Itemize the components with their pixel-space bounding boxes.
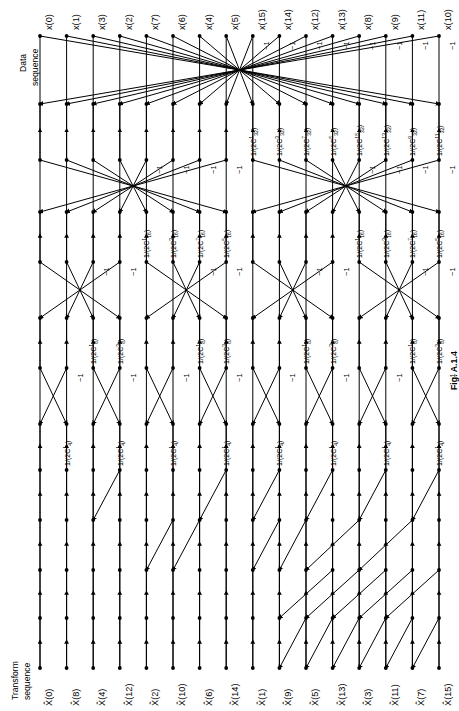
figure-caption: Fig. A.1.4 — [449, 351, 459, 390]
negative-sign-stage-4-7: −1 — [235, 373, 244, 382]
input-axis-label-line2: sequence — [30, 49, 40, 86]
coefficient-stage-1-14: 1/(2C932) — [409, 128, 417, 156]
negative-sign-stage-1-13: −1 — [395, 41, 404, 50]
figure-caption-text: Fig. A.1.4 — [449, 351, 459, 390]
coefficient-stage-4-7: 1/(2C14) — [223, 441, 231, 466]
negative-sign-stage-2-6: −1 — [209, 165, 218, 174]
input-label-8: x(15) — [257, 9, 267, 30]
input-label-0: x(0) — [44, 14, 54, 30]
coefficient-stage-4-13: 1/(2C14) — [383, 441, 391, 466]
coefficient-stage-1-13: 1/(2C1332) — [383, 125, 391, 156]
coefficient-stage-3-6: 1/(2C18) — [197, 339, 205, 364]
negative-sign-stage-1-11: −1 — [342, 41, 351, 50]
input-label-9: x(14) — [283, 9, 293, 30]
output-label-15: X̂(15) — [443, 684, 453, 706]
output-label-0: X̂(0) — [44, 689, 54, 706]
negative-sign-stage-1-14: −1 — [421, 41, 430, 50]
coefficient-stage-2-5: 1/(2C316) — [170, 230, 178, 258]
negative-sign-stage-4-13: −1 — [395, 373, 404, 382]
coefficient-stage-2-15: 1/(2C516) — [436, 230, 444, 258]
input-label-3: x(2) — [124, 14, 134, 30]
coefficient-stage-3-3: 1/(2C38) — [117, 339, 125, 364]
output-label-12: X̂(3) — [363, 689, 373, 706]
coefficient-stage-1-10: 1/(2C732) — [303, 128, 311, 156]
coefficient-stage-2-4: 1/(2C116) — [143, 230, 151, 258]
output-label-7: X̂(14) — [230, 684, 240, 706]
negative-sign-stage-3-14: −1 — [421, 267, 430, 276]
output-label-13: X̂(11) — [390, 684, 400, 706]
input-label-14: x(11) — [416, 10, 426, 30]
negative-sign-stage-1-8: −1 — [262, 41, 271, 50]
output-axis-label-2: sequence — [22, 663, 32, 700]
negative-sign-stage-2-15: −1 — [448, 165, 457, 174]
output-label-4: X̂(2) — [150, 689, 160, 706]
coefficient-stage-3-11: 1/(2C38) — [330, 339, 338, 364]
input-axis-label: Data — [18, 54, 28, 72]
negative-sign-stage-1-9: −1 — [288, 41, 297, 50]
negative-sign-stage-1-12: −1 — [368, 41, 377, 50]
input-label-13: x(9) — [390, 14, 400, 30]
coefficient-stage-4-3: 1/(2C14) — [117, 441, 125, 466]
input-label-1: x(1) — [71, 14, 81, 30]
coefficient-stage-1-11: 1/(2C532) — [330, 128, 338, 156]
input-label-15: x(10) — [443, 9, 453, 30]
output-label-8: X̂(1) — [257, 689, 267, 706]
negative-sign-stage-1-15: −1 — [448, 41, 457, 50]
output-label-10: X̂(5) — [310, 689, 320, 706]
input-label-2: x(3) — [97, 14, 107, 30]
output-label-11: X̂(13) — [337, 684, 347, 706]
coefficient-stage-4-9: 1/(2C14) — [276, 441, 284, 466]
input-label-10: x(12) — [310, 9, 320, 30]
input-label-6: x(4) — [204, 14, 214, 30]
negative-sign-stage-2-12: −1 — [368, 165, 377, 174]
input-axis-label-line1: Data — [18, 54, 28, 72]
coefficient-stage-3-7: 1/(2C38) — [223, 339, 231, 364]
coefficient-stage-2-14: 1/(2C716) — [409, 230, 417, 258]
input-label-12: x(8) — [363, 14, 373, 30]
coefficient-stage-2-13: 1/(2C316) — [383, 230, 391, 258]
input-label-11: x(13) — [337, 9, 347, 30]
coefficient-stage-3-15: 1/(2C38) — [436, 339, 444, 364]
coefficient-stage-1-9: 1/(2C332) — [276, 128, 284, 156]
negative-sign-stage-3-11: −1 — [342, 267, 351, 276]
negative-sign-stage-2-4: −1 — [155, 165, 164, 174]
input-label-5: x(6) — [177, 14, 187, 30]
output-axis-label-line1: Transform — [10, 661, 20, 700]
negative-sign-stage-3-10: −1 — [315, 267, 324, 276]
coefficient-stage-2-12: 1/(2C116) — [356, 230, 364, 258]
input-label-4: x(7) — [150, 14, 160, 30]
negative-sign-stage-2-13: −1 — [395, 165, 404, 174]
coefficient-stage-1-8: 1/(2C132) — [250, 128, 258, 156]
output-label-2: X̂(4) — [97, 689, 107, 706]
coefficient-stage-3-2: 1/(2C18) — [90, 339, 98, 364]
negative-sign-stage-2-7: −1 — [235, 165, 244, 174]
coefficient-stage-3-14: 1/(2C18) — [409, 339, 417, 364]
coefficient-stage-2-7: 1/(2C516) — [223, 230, 231, 258]
output-label-5: X̂(10) — [177, 684, 187, 706]
coefficient-stage-1-15: 1/(2C1132) — [436, 125, 444, 156]
input-axis-label-2: sequence — [30, 49, 40, 86]
output-axis-label: Transform — [10, 661, 20, 700]
negative-sign-stage-4-5: −1 — [182, 373, 191, 382]
negative-sign-stage-3-3: −1 — [129, 267, 138, 276]
coefficient-stage-4-11: 1/(2C14) — [330, 441, 338, 466]
negative-sign-stage-2-5: −1 — [182, 165, 191, 174]
output-label-3: X̂(12) — [124, 684, 134, 706]
input-label-7: x(5) — [230, 14, 240, 30]
negative-sign-stage-3-2: −1 — [102, 267, 111, 276]
output-label-9: X̂(9) — [283, 689, 293, 706]
negative-sign-stage-2-14: −1 — [421, 165, 430, 174]
output-label-14: X̂(7) — [416, 689, 426, 706]
coefficient-stage-1-12: 1/(2C1532) — [356, 125, 364, 156]
negative-sign-stage-3-6: −1 — [209, 267, 218, 276]
output-axis-label-line2: sequence — [22, 663, 32, 700]
coefficient-stage-2-6: 1/(2C716) — [197, 230, 205, 258]
negative-sign-stage-4-3: −1 — [129, 373, 138, 382]
output-label-1: X̂(8) — [71, 689, 81, 706]
negative-sign-stage-3-7: −1 — [235, 267, 244, 276]
coefficient-stage-4-5: 1/(2C14) — [170, 441, 178, 466]
coefficient-stage-3-10: 1/(2C18) — [303, 339, 311, 364]
coefficient-stage-4-1: 1/(2C14) — [64, 441, 72, 466]
negative-sign-stage-4-11: −1 — [342, 373, 351, 382]
negative-sign-stage-3-15: −1 — [448, 267, 457, 276]
